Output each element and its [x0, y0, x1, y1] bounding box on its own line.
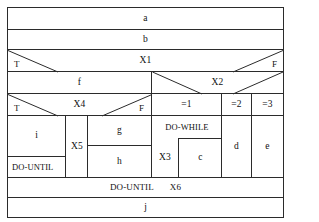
decision-x4-label: X4 — [74, 100, 86, 110]
block-f-label: f — [78, 78, 81, 88]
decision-x1: X1 — [8, 50, 283, 72]
block-c-label: c — [198, 153, 202, 163]
case-label-3: =3 — [252, 94, 283, 116]
block-e-label: e — [265, 142, 269, 152]
block-g: g — [88, 116, 152, 146]
decision-x4-false-label: F — [139, 104, 144, 113]
case-label-1: =1 — [152, 94, 222, 116]
loop-do-until-x5-keyword: DO-UNTIL — [8, 157, 66, 177]
block-b-label: b — [143, 35, 148, 45]
decision-x2-label: X2 — [212, 78, 224, 88]
case-label-3-text: =3 — [262, 100, 272, 110]
loop-do-while-x3-keyword: DO-WHILE — [152, 116, 222, 138]
loop-do-until-x5-condition: X5 — [66, 116, 88, 177]
decision-x2: X2 — [152, 72, 283, 94]
loop-do-until-x5-condition-label: X5 — [71, 142, 83, 152]
block-i-label: i — [35, 131, 38, 141]
block-a-label: a — [143, 14, 147, 24]
block-d-label: d — [234, 142, 239, 152]
block-h: h — [88, 146, 152, 177]
case-label-1-text: =1 — [181, 100, 191, 110]
block-b: b — [8, 30, 283, 50]
block-g-label: g — [117, 126, 122, 136]
loop-do-while-x3-keyword-label: DO-WHILE — [165, 123, 208, 132]
decision-x4-true-label: T — [14, 104, 20, 113]
decision-x4: X4 — [8, 94, 152, 116]
decision-x1-true-label: T — [14, 60, 20, 69]
structogram-diagram: a b X1 T F f X2 X4 T F =1 =2 =3 i DO-UNT… — [0, 0, 319, 222]
loop-do-until-x6-keyword-label: DO-UNTIL — [110, 183, 154, 192]
loop-do-while-x3-condition-label: X3 — [159, 153, 171, 163]
loop-do-until-x5-keyword-label: DO-UNTIL — [12, 163, 53, 172]
case-label-2-text: =2 — [231, 100, 241, 110]
decision-x1-label: X1 — [140, 56, 152, 66]
loop-do-until-x6-condition-label: X6 — [170, 183, 181, 192]
block-h-label: h — [117, 157, 122, 167]
block-e: e — [252, 116, 283, 177]
block-c: c — [178, 138, 222, 177]
block-a: a — [8, 8, 283, 30]
case-label-2: =2 — [222, 94, 252, 116]
block-j-label: j — [144, 203, 147, 213]
loop-do-until-x6: DO-UNTIL X6 — [8, 177, 283, 198]
block-j: j — [8, 198, 283, 218]
loop-do-while-x3-condition: X3 — [152, 138, 178, 177]
block-i: i — [8, 116, 66, 157]
decision-x1-false-label: F — [272, 60, 277, 69]
block-d: d — [222, 116, 252, 177]
block-f: f — [8, 72, 152, 94]
